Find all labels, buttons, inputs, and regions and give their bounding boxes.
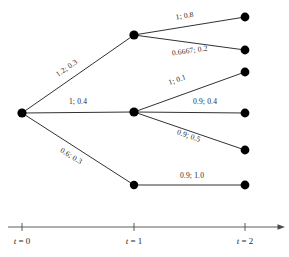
tree-node-n0	[17, 108, 26, 117]
edge-label-e1-5: 0.6667; 0.2	[171, 44, 208, 58]
tree-node-n9	[241, 181, 250, 190]
time-axis-group: t=0t=1t=2	[8, 223, 285, 246]
edge-label-e0-3: 0.6; 0.3	[59, 146, 84, 166]
tree-node-n6	[241, 68, 250, 77]
tree-node-n3	[130, 181, 138, 189]
time-axis-arrowhead	[278, 224, 286, 229]
tree-edge-e0-2	[26, 112, 130, 113]
axis-label-t2: t=2	[237, 236, 253, 246]
tree-node-n2	[129, 107, 138, 116]
scenario-tree-svg: 1.2; 0.31; 0.40.6; 0.31; 0.80.6667; 0.21…	[0, 0, 289, 257]
edge-label-e1-4: 1; 0.8	[175, 10, 194, 22]
tree-edge-e0-3	[25, 115, 131, 183]
axis-label-t0: t=0	[14, 236, 31, 246]
axis-label-t1: t=1	[126, 236, 142, 246]
edge-label-e2-6: 1; 0.1	[167, 72, 187, 87]
edge-label-e3-9: 0.9; 1.0	[180, 171, 204, 180]
edge-label-e0-2: 1; 0.4	[69, 97, 87, 106]
edge-label-e2-8: 0.9; 0.5	[176, 127, 202, 143]
scenario-tree-figure: 1.2; 0.31; 0.40.6; 0.31; 0.80.6667; 0.21…	[0, 0, 289, 257]
tree-node-n1	[129, 30, 138, 39]
tree-edge-e1-4	[138, 18, 241, 35]
tree-node-n4	[241, 13, 250, 22]
tree-node-n8	[241, 146, 250, 155]
edge-label-e2-7: 0.9; 0.4	[193, 97, 217, 106]
tree-edge-e2-7	[138, 112, 241, 113]
tree-edge-e2-6	[138, 73, 242, 110]
tree-node-n5	[241, 46, 250, 55]
tree-node-n7	[241, 109, 250, 118]
